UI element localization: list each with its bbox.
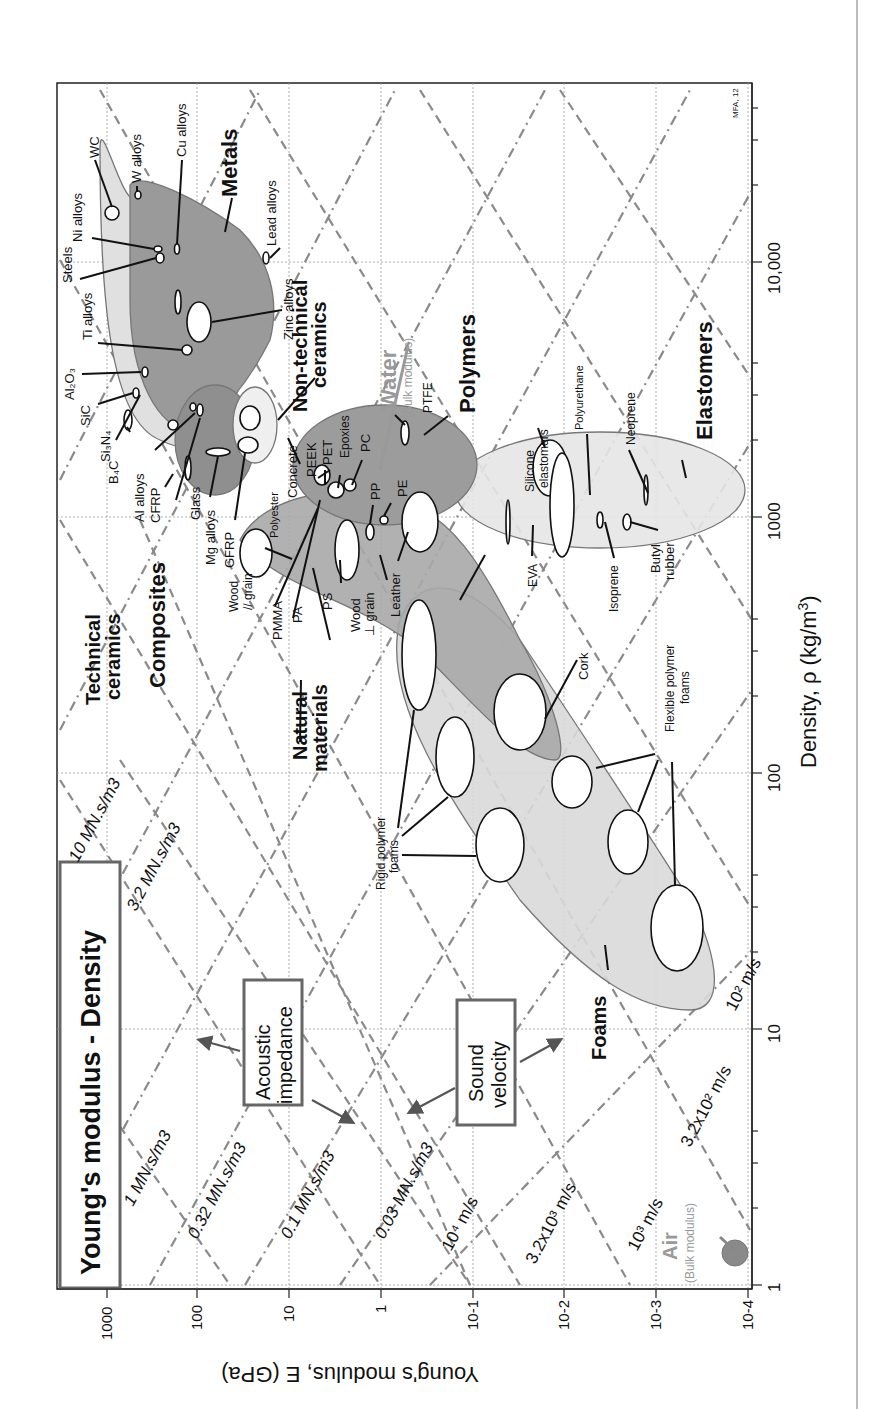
bubble-eva bbox=[506, 500, 510, 544]
svg-text:PET: PET bbox=[320, 440, 335, 465]
bubble-isoprene bbox=[597, 512, 603, 528]
chart-title: Young's modulus - Density bbox=[76, 930, 106, 1275]
x-axis-label: Density, ρ (kg/m3) bbox=[795, 595, 821, 768]
e-axis-labels: 1000 100 10 1 10-1 10-2 10-3 10-4 bbox=[98, 1300, 756, 1340]
svg-text:W alloys: W alloys bbox=[129, 133, 144, 183]
bubble-cork bbox=[494, 674, 546, 750]
bubble-lead bbox=[263, 252, 269, 264]
label-composites: Composites bbox=[145, 562, 170, 688]
svg-text:Flexible polymer: Flexible polymer bbox=[663, 645, 677, 732]
svg-text:elastomers: elastomers bbox=[537, 429, 551, 488]
svg-text:10,000: 10,000 bbox=[765, 242, 784, 294]
bubble-cu bbox=[175, 244, 180, 254]
svg-text:10-4: 10-4 bbox=[739, 1300, 756, 1330]
svg-text:PC: PC bbox=[358, 434, 373, 452]
svg-text:10: 10 bbox=[280, 1305, 297, 1322]
bubble-flex-foam-1 bbox=[552, 756, 592, 808]
bubble-flex-foam-3 bbox=[651, 885, 703, 971]
bubble-rigid-foam-2 bbox=[436, 717, 474, 797]
svg-text:CFRP: CFRP bbox=[148, 488, 163, 523]
density-axis-ticks bbox=[752, 83, 762, 1289]
sound-label-2: velocity bbox=[488, 1041, 510, 1108]
svg-text:Cork: Cork bbox=[576, 652, 591, 680]
bubble-flex-foam-2 bbox=[608, 810, 648, 874]
svg-text:⊥ grain: ⊥ grain bbox=[362, 592, 377, 636]
label-air: Air bbox=[659, 1232, 681, 1260]
svg-text:Wood: Wood bbox=[348, 598, 363, 632]
svg-text:Mg alloys: Mg alloys bbox=[203, 510, 218, 565]
bubble-glass bbox=[190, 403, 196, 411]
svg-text:PE: PE bbox=[395, 479, 410, 497]
svg-text:Silicone: Silicone bbox=[523, 450, 537, 492]
svg-text:Polyester: Polyester bbox=[268, 492, 280, 538]
bubble-steels2 bbox=[175, 290, 181, 314]
bubble-gfrp bbox=[238, 437, 258, 453]
svg-text:// grain: // grain bbox=[241, 573, 255, 610]
svg-text:Polyurethane: Polyurethane bbox=[573, 365, 585, 430]
bubble-ni bbox=[154, 246, 162, 252]
sound-label-1: Sound bbox=[465, 1044, 487, 1102]
bubble-pp bbox=[366, 524, 374, 540]
label-nontech-2: ceramics bbox=[308, 301, 330, 388]
bubble-polyurethane bbox=[550, 453, 574, 557]
svg-text:rubber: rubber bbox=[662, 542, 677, 580]
svg-text:SiC: SiC bbox=[78, 405, 93, 426]
chart-canvas: 1000 100 10 1 10-1 10-2 10-3 10-4 Young'… bbox=[0, 0, 871, 1409]
svg-text:Si₃N₄: Si₃N₄ bbox=[98, 430, 113, 462]
svg-text:Epoxies: Epoxies bbox=[338, 415, 352, 458]
svg-text:WC: WC bbox=[87, 136, 102, 158]
bubble-concrete bbox=[240, 406, 260, 430]
svg-text:Butyl: Butyl bbox=[648, 544, 663, 573]
bubble-glass2 bbox=[197, 404, 203, 416]
label-metals: Metals bbox=[217, 129, 242, 197]
svg-text:Leather: Leather bbox=[388, 572, 403, 617]
svg-text:1000: 1000 bbox=[98, 1307, 115, 1340]
bubble-al bbox=[168, 420, 178, 430]
bubble-ti bbox=[182, 345, 192, 355]
svg-text:Concrete: Concrete bbox=[285, 445, 300, 498]
bubble-leather bbox=[402, 492, 438, 552]
svg-text:PA: PA bbox=[290, 606, 305, 623]
svg-text:Ti alloys: Ti alloys bbox=[80, 292, 95, 340]
svg-text:Isoprene: Isoprene bbox=[607, 565, 621, 612]
svg-text:foams: foams bbox=[387, 840, 401, 873]
label-natural-1: Natural bbox=[289, 691, 311, 760]
svg-text:PTFE: PTFE bbox=[421, 382, 435, 413]
svg-text:Glass: Glass bbox=[188, 486, 203, 520]
label-natural-2: materials bbox=[309, 684, 331, 772]
svg-text:B₄C: B₄C bbox=[106, 461, 121, 484]
svg-text:Al₂O₃: Al₂O₃ bbox=[62, 368, 77, 400]
credit: MFA, 12 bbox=[731, 88, 740, 118]
y-axis-label: Young's modulus, E (GPa) bbox=[221, 1362, 479, 1387]
svg-text:Neoprene: Neoprene bbox=[624, 392, 638, 445]
svg-text:10-1: 10-1 bbox=[464, 1300, 481, 1330]
svg-text:1: 1 bbox=[765, 1283, 784, 1292]
svg-text:Lead alloys: Lead alloys bbox=[264, 180, 279, 246]
bubble-pe bbox=[380, 516, 388, 524]
acoustic-label-2: impedance bbox=[274, 1006, 296, 1104]
bubble-pet bbox=[328, 482, 344, 498]
e-axis-ticks bbox=[57, 1289, 752, 1298]
label-water: Water bbox=[376, 349, 401, 410]
svg-text:EVA: EVA bbox=[526, 564, 540, 587]
svg-text:100: 100 bbox=[188, 1305, 205, 1330]
bubble-wood-perp bbox=[335, 520, 359, 580]
bubble-butyl bbox=[623, 514, 631, 530]
svg-text:Steels: Steels bbox=[60, 246, 75, 283]
svg-text:PEEK: PEEK bbox=[304, 442, 319, 477]
svg-text:1000: 1000 bbox=[765, 502, 784, 540]
bubble-rigid-foam-3 bbox=[476, 808, 524, 882]
elastomers-envelope bbox=[455, 432, 745, 548]
bubble-mg bbox=[206, 448, 230, 456]
svg-text:PMMA: PMMA bbox=[270, 601, 285, 640]
bubble-rigid-foam-1 bbox=[402, 600, 436, 710]
svg-text:Rigid polymer: Rigid polymer bbox=[374, 817, 388, 890]
svg-text:Cu alloys: Cu alloys bbox=[174, 103, 189, 157]
label-water-sub: (Bulk modulus) bbox=[401, 338, 415, 418]
svg-text:foams: foams bbox=[678, 671, 692, 704]
bubble-w bbox=[135, 191, 141, 199]
svg-text:Zinc alloys: Zinc alloys bbox=[281, 278, 296, 340]
svg-text:1: 1 bbox=[372, 1305, 389, 1313]
label-air-sub: (Bulk modulus) bbox=[683, 1203, 697, 1283]
bubble-steels bbox=[156, 253, 164, 263]
